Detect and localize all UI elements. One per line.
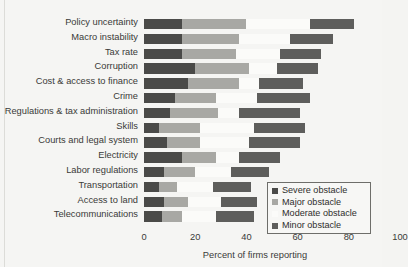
category-label: Tax rate [0,47,138,58]
clipped-header-text [14,0,370,5]
bar-segment [195,63,249,73]
stacked-bar [144,93,310,103]
category-label-row: Corruption [0,61,138,76]
bar-segment [231,167,269,177]
bar-segment [144,49,182,59]
legend-item: Minor obstacle [272,220,367,232]
bar-segment [144,108,170,118]
legend-item: Major obstacle [272,197,367,209]
legend-swatch-icon [272,199,278,205]
category-label-row: Tax rate [0,47,138,62]
stacked-bar [144,167,269,177]
bar-segment [144,63,195,73]
category-label-row: Cost & access to finance [0,76,138,91]
category-label: Cost & access to finance [0,76,138,87]
chart-legend: Severe obstacleMajor obstacleModerate ob… [267,182,371,234]
stacked-bar [144,19,354,29]
stacked-bar [144,197,257,207]
bar-row [144,76,400,91]
bar-row [144,32,400,47]
stacked-bar [144,49,321,59]
category-label: Crime [0,91,138,102]
legend-item: Severe obstacle [272,185,367,197]
category-label: Transportation [0,180,138,191]
bar-segment [162,211,182,221]
bar-segment [310,19,354,29]
bar-row [144,61,400,76]
x-axis-title: Percent of firms reporting [144,250,366,260]
bar-segment [277,63,318,73]
category-label-row: Policy uncertainty [0,17,138,32]
bar-segment [144,182,159,192]
bar-segment [144,197,164,207]
bar-segment [177,182,213,192]
bar-segment [159,123,200,133]
bar-segment [164,167,195,177]
category-label: Electricity [0,150,138,161]
category-label-row: Labor regulations [0,165,138,180]
stacked-bar [144,152,280,162]
category-axis-labels: Policy uncertaintyMacro instabilityTax r… [0,17,140,231]
x-tick-label: 20 [190,232,200,242]
legend-label: Severe obstacle [282,185,347,196]
bar-segment [200,123,254,133]
bar-segment [182,19,246,29]
bar-segment [257,93,311,103]
bar-segment [144,167,164,177]
category-label-row: Crime [0,91,138,106]
category-label: Regulations & tax administration [0,106,138,117]
bar-segment [144,93,175,103]
bar-row [144,91,400,106]
bar-segment [182,152,215,162]
bar-segment [246,19,310,29]
bar-segment [239,108,300,118]
bar-row [144,121,400,136]
bar-segment [216,211,254,221]
bar-row [144,150,400,165]
bar-segment [144,123,159,133]
x-tick-label: 100 [392,232,408,242]
category-label: Skills [0,121,138,132]
bar-segment [170,108,219,118]
category-label: Corruption [0,61,138,72]
stacked-bar [144,34,333,44]
bar-segment [239,78,259,88]
bar-row [144,135,400,150]
bar-segment [182,49,236,59]
bar-segment [144,78,188,88]
bar-segment [188,78,239,88]
bar-segment [144,211,162,221]
x-tick-label: 0 [141,232,146,242]
bar-segment [182,211,215,221]
stacked-bar [144,123,305,133]
bar-segment [290,34,334,44]
stacked-bar [144,78,303,88]
category-label-row: Macro instability [0,32,138,47]
category-label-row: Courts and legal system [0,135,138,150]
bar-segment [259,78,303,88]
bar-segment [167,137,200,147]
bar-segment [249,63,277,73]
bar-segment [144,34,182,44]
bar-segment [144,19,182,29]
bar-segment [236,49,280,59]
bar-segment [182,34,238,44]
legend-swatch-icon [272,223,278,229]
category-label-row: Skills [0,121,138,136]
legend-swatch-icon [272,211,278,217]
stacked-bar [144,182,251,192]
category-label: Courts and legal system [0,135,138,146]
category-label: Macro instability [0,32,138,43]
bar-segment [159,182,177,192]
stacked-bar [144,137,300,147]
legend-label: Minor obstacle [282,220,341,231]
stacked-bar [144,63,318,73]
stacked-bar [144,211,254,221]
bar-segment [249,137,300,147]
category-label-row: Access to land [0,195,138,210]
bar-segment [254,123,305,133]
bar-segment [239,152,280,162]
bar-segment [239,34,290,44]
bar-segment [216,93,257,103]
bar-segment [221,197,257,207]
